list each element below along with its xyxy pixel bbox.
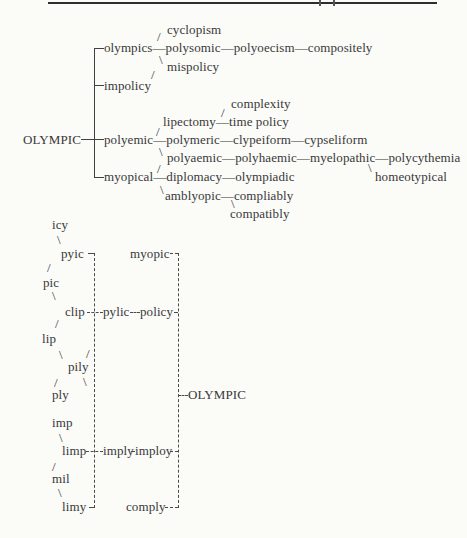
word-limy: limy [62,500,86,513]
word-limp: limp [62,444,86,457]
tree-row: lipectomy—time policy [163,115,289,128]
word-polyaemic: polyaemic [167,150,222,165]
backslash-connector: \ [368,161,372,174]
tree-row: mispolicy [167,60,219,73]
word-polycythemia: polycythemia [388,150,460,165]
dash-connector: — [375,150,388,165]
dashed-link [170,451,178,452]
dash-connector: — [222,169,235,184]
word-polymeric: polymeric [166,132,220,147]
word-olympic: OLYMPIC [23,132,81,147]
backslash-connector: \ [52,289,56,302]
word-imploy: imploy [135,444,172,457]
word-polyemic: polyemic [104,132,153,147]
word-olympic: OLYMPIC [188,388,246,401]
dashed-link [130,312,140,313]
tree-row: myopical—diplomacy—olympiadic [104,170,295,183]
word-lip: lip [42,332,56,345]
tree-row: complexity [231,97,291,110]
backslash-connector: \ [83,375,87,388]
backslash-connector: \ [159,145,163,158]
word-comply: comply [126,500,166,513]
word-pily: pily [68,360,89,373]
branch-line [81,139,104,140]
word-clip: clip [65,305,85,318]
word-compliably: compliably [234,188,294,203]
word-cypseliform: cypseliform [304,132,367,147]
backslash-connector: \ [59,431,63,444]
word-policy: policy [140,305,173,318]
dashed-rail-right [178,253,179,508]
tree-row: impolicy [104,79,151,92]
tree-row: polyemic—polymeric—clypeiform—cypselifor… [104,133,367,146]
dash-connector: — [220,132,233,147]
dashed-link [165,507,178,508]
tree-row: polyaemic—polyhaemic—myelopathic—polycyt… [167,151,460,164]
branch-line [94,177,104,178]
tree-row: OLYMPIC [23,133,81,146]
word-time-policy: time policy [229,114,289,129]
word-cyclopism: cyclopism [167,22,221,37]
top-rule [48,2,437,4]
word-polyhaemic: polyhaemic [235,150,297,165]
word-clypeiform: clypeiform [233,132,291,147]
word-imply: imply [103,444,134,457]
dashed-link [88,253,94,254]
word-diplomacy: diplomacy [166,169,222,184]
dashed-link [174,312,178,313]
scanned-book-page: cyclopismolympics—polysomic—polyoecism—c… [0,0,467,538]
word-homeotypical: homeotypical [375,169,447,184]
dashed-rail-left [94,253,95,508]
dashed-link [131,451,135,452]
backslash-connector: \ [231,197,235,210]
slash-connector: / [86,347,90,360]
slash-connector: / [54,376,58,389]
dashed-link [87,312,103,313]
word-amblyopic: amblyopic [165,188,221,203]
word-imp: imp [52,416,73,429]
slash-connector: / [47,261,51,274]
word-impolicy: impolicy [104,78,151,93]
dashed-link [86,451,103,452]
backslash-connector: \ [59,348,63,361]
backslash-connector: \ [58,486,62,499]
word-compatibly: compatibly [230,206,290,221]
slash-connector: / [55,317,59,330]
branch-line [94,85,104,86]
backslash-connector: \ [159,53,163,66]
rule-tick [319,0,321,6]
slash-connector: / [157,162,161,175]
dash-connector: — [222,150,235,165]
backslash-connector: \ [57,233,61,246]
dash-connector: — [291,132,304,147]
word-olympiadic: olympiadic [235,169,295,184]
word-mispolicy: mispolicy [167,59,219,74]
dashed-link [178,395,188,396]
tree-row: homeotypical [375,170,447,183]
word-polyoecism: polyoecism [234,40,295,55]
word-myopic: myopic [130,247,170,260]
backslash-connector: \ [160,183,164,196]
slash-connector: / [156,125,160,138]
slash-connector: / [52,460,56,473]
dashed-link [89,507,94,508]
tree-row: compatibly [230,207,290,220]
tree-row: cyclopism [167,23,221,36]
word-complexity: complexity [231,96,291,111]
tree-bracket-line [94,48,95,177]
slash-connector: / [221,106,225,119]
rule-tick [333,0,335,6]
branch-line [94,48,104,49]
dash-connector: — [295,40,308,55]
dash-connector: — [297,150,310,165]
tree-row: olympics—polysomic—polyoecism—compositel… [104,41,372,54]
word-myelopathic: myelopathic [310,150,375,165]
word-pyic: pyic [61,247,84,260]
word-polysomic: polysomic [166,40,221,55]
dashed-link [170,253,178,254]
word-myopical: myopical [104,169,153,184]
word-pylic: pylic [103,305,130,318]
word-olympics: olympics [104,40,152,55]
word-lipectomy: lipectomy [163,114,216,129]
dash-connector: — [221,40,234,55]
